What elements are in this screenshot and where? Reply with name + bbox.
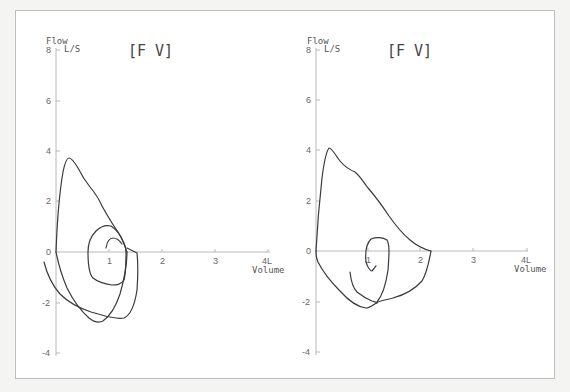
svg-text:-2: -2: [42, 298, 50, 308]
flow-volume-curves: [316, 148, 431, 308]
volume-axis-label: Volume: [252, 265, 285, 275]
svg-text:-4: -4: [42, 348, 50, 358]
svg-text:4: 4: [46, 146, 51, 156]
svg-text:4: 4: [306, 145, 311, 155]
svg-text:3: 3: [471, 255, 476, 265]
svg-text:2: 2: [46, 196, 51, 206]
flow-unit-label: L/S: [64, 44, 80, 54]
svg-text:0: 0: [46, 247, 51, 257]
svg-text:3: 3: [213, 256, 218, 266]
y-tick-labels: 8 6 4 2 0 -2 -4: [302, 45, 311, 357]
flow-unit-label: L/S: [324, 44, 340, 54]
svg-text:2: 2: [306, 196, 311, 206]
flow-volume-curves: [44, 158, 138, 322]
svg-text:1: 1: [107, 256, 112, 266]
svg-text:0: 0: [306, 246, 311, 256]
flow-volume-charts: Flow L/S [F V] 8 6 4 2 0 -2 -4: [0, 0, 570, 392]
y-tick-labels: 8 6 4 2 0 -2 -4: [42, 45, 51, 358]
x-tick-labels: 1 2 3 4L: [366, 255, 531, 265]
x-tick-labels: 1 2 3 4L: [107, 256, 272, 266]
right-flow-volume-chart: Flow L/S [F V] 8 6 4 2 0 -2 -4: [302, 36, 547, 357]
svg-text:8: 8: [46, 45, 51, 55]
svg-text:2: 2: [160, 256, 165, 266]
volume-axis-label: Volume: [514, 264, 547, 274]
chart-title: [F V]: [387, 42, 432, 60]
svg-text:-4: -4: [302, 347, 310, 357]
svg-text:8: 8: [306, 45, 311, 55]
svg-text:6: 6: [46, 96, 51, 106]
svg-text:-2: -2: [302, 297, 310, 307]
chart-title: [F V]: [128, 42, 173, 60]
svg-text:2: 2: [418, 255, 423, 265]
left-flow-volume-chart: Flow L/S [F V] 8 6 4 2 0 -2 -4: [42, 36, 285, 358]
svg-text:6: 6: [306, 95, 311, 105]
